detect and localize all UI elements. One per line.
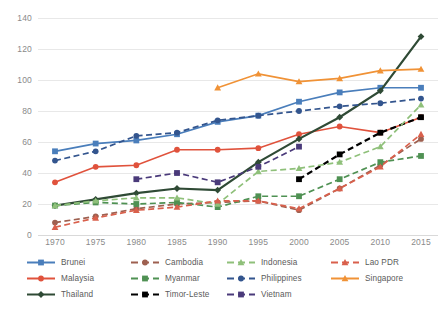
series-lao-pdr — [52, 131, 425, 230]
data-point-marker — [52, 179, 58, 185]
series-indonesia — [52, 101, 425, 208]
chart-legend: BruneiMalaysiaThailandCambodiaMyanmarTim… — [26, 256, 426, 306]
data-point-marker — [238, 276, 244, 282]
x-tick-label: 2010 — [370, 237, 390, 247]
data-point-marker — [174, 147, 180, 153]
data-point-marker — [238, 292, 244, 298]
series-layer — [38, 18, 438, 235]
y-tick-label: 120 — [17, 44, 32, 54]
data-point-marker — [337, 124, 343, 130]
series-line — [299, 117, 421, 179]
x-tick-label: 1985 — [167, 237, 187, 247]
series-philippines — [52, 96, 424, 164]
data-point-marker — [133, 162, 139, 168]
legend-label: Myanmar — [165, 274, 200, 283]
data-point-marker — [337, 176, 343, 182]
data-point-marker — [418, 96, 424, 102]
data-point-marker — [38, 276, 44, 282]
data-point-marker — [337, 90, 343, 96]
series-timor-leste — [296, 114, 424, 182]
legend-swatch-icon — [226, 273, 256, 284]
legend-item-thailand[interactable]: Thailand — [26, 288, 130, 301]
data-point-marker — [52, 158, 58, 164]
legend-column-4: Lao PDRSingapore — [330, 256, 426, 301]
data-point-marker — [337, 152, 343, 158]
x-tick-label: 1980 — [126, 237, 146, 247]
x-tick-label: 1995 — [248, 237, 268, 247]
legend-swatch-icon — [26, 257, 56, 268]
x-tick-label: 1970 — [45, 237, 65, 247]
legend-item-malaysia[interactable]: Malaysia — [26, 272, 130, 285]
legend-label: Timor-Leste — [165, 290, 209, 299]
data-point-marker — [418, 153, 424, 159]
data-point-marker — [255, 164, 261, 170]
y-tick-label: 20 — [22, 199, 32, 209]
data-point-marker — [93, 141, 99, 147]
legend-swatch-icon — [330, 257, 360, 268]
data-point-marker — [142, 292, 148, 298]
x-tick-label: 2000 — [289, 237, 309, 247]
data-point-marker — [255, 145, 261, 151]
legend-column-2: CambodiaMyanmarTimor-Leste — [130, 256, 226, 301]
legend-label: Vietnam — [261, 290, 292, 299]
data-point-marker — [418, 85, 424, 91]
legend-item-philippines[interactable]: Philippines — [226, 272, 330, 285]
legend-item-singapore[interactable]: Singapore — [330, 272, 426, 285]
series-thailand — [52, 33, 425, 209]
gridline-0 — [38, 235, 438, 236]
series-brunei — [52, 85, 424, 154]
data-point-marker — [418, 114, 424, 120]
data-point-marker — [174, 170, 180, 176]
data-point-marker — [337, 103, 343, 109]
legend-label: Indonesia — [261, 258, 297, 267]
y-tick-label: 80 — [22, 106, 32, 116]
legend-label: Cambodia — [165, 258, 203, 267]
data-point-marker — [133, 201, 139, 207]
data-point-marker — [215, 179, 221, 185]
legend-item-vietnam[interactable]: Vietnam — [226, 288, 330, 301]
legend-swatch-icon — [226, 289, 256, 300]
legend-column-1: BruneiMalaysiaThailand — [26, 256, 130, 301]
data-point-marker — [174, 130, 180, 136]
legend-item-cambodia[interactable]: Cambodia — [130, 256, 226, 269]
y-tick-label: 140 — [17, 13, 32, 23]
series-singapore — [214, 66, 424, 91]
legend-item-myanmar[interactable]: Myanmar — [130, 272, 226, 285]
legend-swatch-icon — [130, 273, 160, 284]
legend-item-lao-pdr[interactable]: Lao PDR — [330, 256, 426, 269]
legend-swatch-icon — [130, 257, 160, 268]
legend-label: Brunei — [61, 258, 85, 267]
data-point-marker — [38, 291, 45, 298]
data-point-marker — [418, 101, 425, 107]
data-point-marker — [418, 131, 425, 137]
legend-swatch-icon — [26, 273, 56, 284]
data-point-marker — [377, 130, 383, 136]
series-line — [55, 88, 421, 152]
plot-area — [38, 18, 438, 235]
legend-swatch-icon — [330, 273, 360, 284]
y-tick-label: 100 — [17, 75, 32, 85]
data-point-marker — [93, 148, 99, 154]
legend-item-indonesia[interactable]: Indonesia — [226, 256, 330, 269]
x-axis-tick-labels: 1970197519801985199019952000200520102015 — [38, 237, 438, 253]
data-point-marker — [296, 108, 302, 114]
data-point-marker — [133, 176, 139, 182]
data-point-marker — [133, 133, 139, 139]
data-point-marker — [377, 100, 383, 106]
y-tick-label: 60 — [22, 137, 32, 147]
legend-swatch-icon — [226, 257, 256, 268]
legend-label: Philippines — [261, 274, 302, 283]
data-point-marker — [215, 117, 221, 123]
legend-swatch-icon — [130, 289, 160, 300]
legend-label: Singapore — [365, 274, 403, 283]
legend-item-timor-leste[interactable]: Timor-Leste — [130, 288, 226, 301]
data-point-marker — [38, 260, 44, 266]
x-tick-label: 2005 — [330, 237, 350, 247]
data-point-marker — [215, 147, 221, 153]
legend-item-brunei[interactable]: Brunei — [26, 256, 130, 269]
x-tick-label: 1975 — [86, 237, 106, 247]
y-tick-label: 40 — [22, 168, 32, 178]
data-point-marker — [174, 185, 181, 192]
data-point-marker — [255, 113, 261, 119]
data-point-marker — [52, 148, 58, 154]
